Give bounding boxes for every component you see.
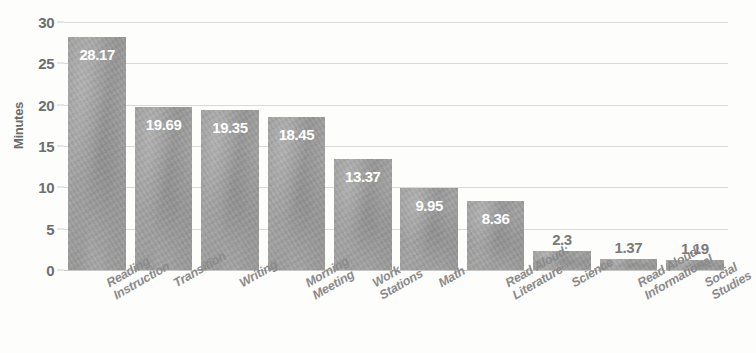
bar-value-label: 19.69 [135, 116, 193, 133]
y-tick-mark [57, 146, 64, 147]
y-tick-label: 20 [20, 96, 54, 113]
bar-value-label: 9.95 [400, 197, 458, 214]
y-tick-mark [57, 228, 64, 229]
bar-value-label: 18.45 [268, 126, 326, 143]
y-tick-label: 5 [20, 220, 54, 237]
y-tick-label: 0 [20, 262, 54, 279]
y-tick-label: 25 [20, 55, 54, 72]
y-tick-label: 30 [20, 14, 54, 31]
bar-value-label: 19.35 [201, 119, 259, 136]
y-tick-label: 15 [20, 138, 54, 155]
bar[interactable] [68, 37, 126, 270]
bar-value-label: 28.17 [68, 46, 126, 63]
bar-value-label: 2.3 [533, 231, 591, 248]
y-tick-mark [57, 270, 64, 271]
y-tick-mark [57, 22, 64, 23]
y-tick-mark [57, 187, 64, 188]
y-tick-mark [57, 63, 64, 64]
bar-value-label: 1.37 [600, 239, 658, 256]
bar-slot: 28.17 [68, 22, 126, 270]
bar-slot: 2.3 [533, 22, 591, 270]
bar-value-label: 8.36 [467, 210, 525, 227]
bar-value-label: 13.37 [334, 168, 392, 185]
bar-value-label: 1.19 [666, 240, 724, 257]
y-tick-label: 10 [20, 179, 54, 196]
y-tick-mark [57, 104, 64, 105]
